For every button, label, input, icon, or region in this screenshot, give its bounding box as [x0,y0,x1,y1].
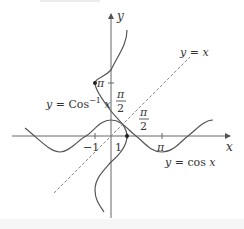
inverse-cosine-diagram: y x −1 1 π π π 2 π 2 y = Cos−1 x y = cos… [0,0,244,229]
cos-label: y = cos x [164,156,216,169]
x-half-pi-num: π [139,106,148,119]
arccos-label: y = Cos−1 x [45,96,111,111]
y-half-pi-den: 2 [117,102,124,115]
y-half-pi-num: π [116,88,125,101]
x-half-pi-den: 2 [140,120,147,133]
y-axis-label: y [116,9,124,23]
arccos-label-sup: −1 [89,96,101,105]
x-tick-label-1: 1 [115,141,122,154]
identity-label: y = x [179,46,209,59]
x-tick-label-neg1: −1 [83,141,99,154]
identity-line [54,57,190,193]
arccos-label-prefix: = Cos [52,98,89,111]
y-tick-label-pi: π [96,77,105,90]
one-point [125,134,129,138]
x-axis-label: x [226,140,233,154]
x-tick-label-pi: π [156,141,165,154]
